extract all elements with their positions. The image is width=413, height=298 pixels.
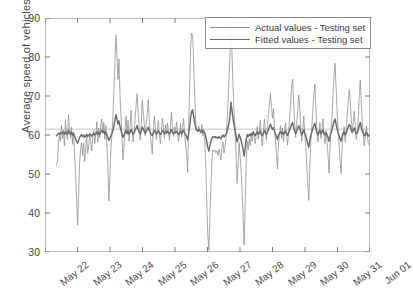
chart-legend: Actual values - Testing set Fitted value… — [205, 17, 371, 49]
legend-swatch-actual-icon — [210, 27, 250, 28]
y-tick-label: 90 — [28, 12, 40, 24]
x-tick-label: May 31 — [350, 259, 383, 288]
x-tick-label: May 24 — [123, 259, 156, 288]
legend-label-fitted: Fitted values - Testing set — [255, 34, 363, 45]
legend-label-actual: Actual values - Testing set — [255, 22, 365, 33]
y-tick-label: 70 — [28, 90, 40, 102]
x-tick-label: May 22 — [58, 259, 91, 288]
y-tick-label: 80 — [28, 51, 40, 63]
x-tick-label: Jun 01 — [382, 259, 412, 286]
legend-swatch-fitted-icon — [210, 39, 250, 40]
x-tick-label: May 26 — [188, 259, 221, 288]
legend-item-fitted: Fitted values - Testing set — [210, 33, 365, 45]
x-tick-label: May 27 — [220, 259, 253, 288]
x-tick-label: May 23 — [90, 259, 123, 288]
x-tick-label: May 29 — [285, 259, 318, 288]
legend-item-actual: Actual values - Testing set — [210, 21, 365, 33]
x-tick-label: May 28 — [253, 259, 286, 288]
y-tick-label: 40 — [28, 207, 40, 219]
y-tick-label: 30 — [28, 246, 40, 258]
x-tick-label: May 30 — [318, 259, 351, 288]
plot-area: 30405060708090 May 22May 23May 24May 25M… — [45, 18, 370, 252]
data-series — [56, 27, 368, 250]
y-tick-label: 60 — [28, 129, 40, 141]
y-tick-label: 50 — [28, 168, 40, 180]
y-axis-title: Average speed of vehicles — [20, 0, 32, 166]
chart-canvas — [45, 18, 370, 252]
x-tick-label: May 25 — [155, 259, 188, 288]
